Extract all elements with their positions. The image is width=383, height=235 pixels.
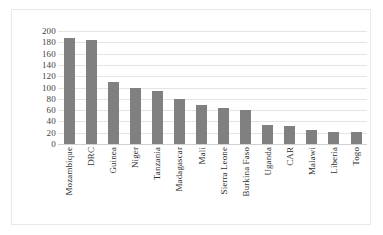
bar[interactable]: [64, 38, 75, 144]
bar-slot: [58, 31, 80, 144]
bar-slot: [301, 31, 323, 144]
x-axis-tick-label: Malawi: [307, 147, 316, 175]
bar-slot: [190, 31, 212, 144]
bar-slot: [80, 31, 102, 144]
x-axis-tick: Togo: [345, 147, 367, 221]
x-axis-tick: Liberia: [323, 147, 345, 221]
x-axis-tick-label: Togo: [352, 147, 361, 166]
plot-area: [58, 31, 367, 144]
bar[interactable]: [86, 40, 97, 144]
bar[interactable]: [351, 132, 362, 144]
x-axis-tick-label: CAR: [285, 147, 294, 166]
bar-slot: [257, 31, 279, 144]
x-axis-tick: Niger: [124, 147, 146, 221]
y-axis-tick-label: 120: [42, 72, 56, 81]
y-axis-tick-label: 180: [42, 38, 56, 47]
bar[interactable]: [218, 108, 229, 144]
bar-slot: [235, 31, 257, 144]
y-axis-tick-label: 60: [47, 106, 56, 115]
x-axis-tick: Tanzania: [146, 147, 168, 221]
bar-slot: [279, 31, 301, 144]
x-axis-tick: Guinea: [102, 147, 124, 221]
y-axis-tick-label: 80: [47, 94, 56, 103]
x-axis-tick: Mozambique: [58, 147, 80, 221]
y-axis-tick-label: 160: [42, 49, 56, 58]
bar-slot: [124, 31, 146, 144]
x-axis-tick-label: Niger: [131, 147, 140, 168]
bar[interactable]: [284, 126, 295, 144]
gridline: [58, 144, 367, 145]
y-axis-tick-label: 100: [42, 83, 56, 92]
x-axis: MozambiqueDRCGuineaNigerTanzaniaMadagasc…: [58, 147, 367, 221]
bar-slot: [213, 31, 235, 144]
bar[interactable]: [306, 130, 317, 144]
chart-container: 200180160140120100806040200 MozambiqueDR…: [11, 9, 371, 225]
y-axis-tick-label: 200: [42, 27, 56, 36]
bar[interactable]: [152, 91, 163, 144]
x-axis-tick-label: Madagascar: [175, 147, 184, 191]
x-axis-tick-label: Mozambique: [65, 147, 74, 196]
x-axis-tick-label: Liberia: [329, 147, 338, 174]
x-axis-tick: CAR: [279, 147, 301, 221]
x-axis-tick-label: Guinea: [109, 147, 118, 174]
x-axis-tick-label: Burkina Faso: [241, 147, 250, 196]
x-axis-tick-label: DRC: [87, 147, 96, 166]
bar[interactable]: [174, 99, 185, 144]
bar[interactable]: [196, 105, 207, 144]
x-axis-tick: Mali: [190, 147, 212, 221]
x-axis-tick: DRC: [80, 147, 102, 221]
bar-slot: [146, 31, 168, 144]
bar[interactable]: [262, 125, 273, 144]
bar-slot: [168, 31, 190, 144]
bar-series: [58, 31, 367, 144]
bar[interactable]: [328, 132, 339, 144]
x-axis-tick: Madagascar: [168, 147, 190, 221]
x-axis-tick: Burkina Faso: [235, 147, 257, 221]
y-axis: 200180160140120100806040200: [32, 31, 56, 144]
bar-slot: [345, 31, 367, 144]
bar[interactable]: [108, 82, 119, 144]
x-axis-tick: Sierra Leone: [213, 147, 235, 221]
y-axis-tick-label: 0: [51, 140, 56, 149]
x-axis-tick-label: Uganda: [263, 147, 272, 176]
y-axis-tick-label: 140: [42, 60, 56, 69]
bar-slot: [102, 31, 124, 144]
bar[interactable]: [240, 110, 251, 144]
x-axis-tick-label: Tanzania: [153, 147, 162, 180]
y-axis-tick-label: 40: [47, 117, 56, 126]
y-axis-tick-label: 20: [47, 128, 56, 137]
x-axis-tick: Malawi: [301, 147, 323, 221]
bar-slot: [323, 31, 345, 144]
x-axis-tick-label: Mali: [197, 147, 206, 164]
x-axis-tick-label: Sierra Leone: [219, 147, 228, 194]
x-axis-tick: Uganda: [257, 147, 279, 221]
bar[interactable]: [130, 88, 141, 144]
